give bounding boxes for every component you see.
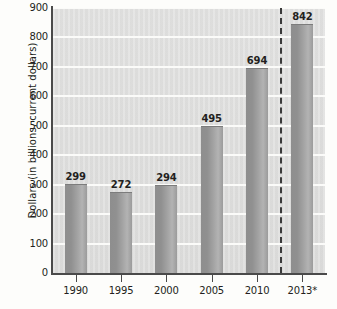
x-axis-line (51, 273, 327, 275)
plot-area (53, 8, 325, 273)
gridline (53, 66, 325, 68)
gridline (53, 184, 325, 186)
bar-value-label: 842 (282, 11, 322, 22)
gridline (53, 243, 325, 245)
gridline (53, 213, 325, 215)
bar-chart-figure: Dollars (in billions, current dollars) 2… (0, 0, 337, 309)
y-tick-label: 400 (8, 149, 48, 160)
x-tick-label-2000: 2000 (141, 285, 191, 296)
y-tick-label: 600 (8, 90, 48, 101)
projection-divider-line (280, 8, 282, 273)
bar-1995 (110, 192, 132, 273)
y-tick-label: 200 (8, 208, 48, 219)
bar-2010 (246, 68, 268, 273)
gridline (53, 36, 325, 38)
bar-2013 (291, 24, 313, 273)
x-tick-label-2010: 2010 (232, 285, 282, 296)
y-tick-label: 800 (8, 31, 48, 42)
y-tick-label: 300 (8, 179, 48, 190)
y-tick-label: 100 (8, 238, 48, 249)
y-tick-label: 900 (8, 2, 48, 13)
x-tick-mark (121, 275, 122, 282)
x-tick-mark (302, 275, 303, 282)
bar-1990 (65, 184, 87, 273)
y-tick-label: 700 (8, 61, 48, 72)
bar-value-label: 272 (101, 179, 141, 190)
y-tick-label: 500 (8, 120, 48, 131)
y-tick-label: 0 (8, 267, 48, 278)
bar-2005 (201, 126, 223, 273)
bar-value-label: 694 (237, 55, 277, 66)
gridline (53, 8, 325, 9)
x-tick-mark (257, 275, 258, 282)
x-tick-label-1995: 1995 (96, 285, 146, 296)
x-tick-label-2005: 2005 (187, 285, 237, 296)
bar-value-label: 299 (56, 171, 96, 182)
x-tick-mark (212, 275, 213, 282)
x-tick-mark (166, 275, 167, 282)
bar-2000 (155, 185, 177, 273)
gridline (53, 95, 325, 97)
x-tick-label-1990: 1990 (51, 285, 101, 296)
x-tick-mark (76, 275, 77, 282)
y-axis-line (51, 6, 53, 275)
plot-background-texture (53, 8, 325, 273)
x-tick-label-2013: 2013* (277, 285, 327, 296)
gridline (53, 125, 325, 127)
bar-value-label: 294 (146, 172, 186, 183)
bar-value-label: 495 (192, 113, 232, 124)
gridline (53, 154, 325, 156)
